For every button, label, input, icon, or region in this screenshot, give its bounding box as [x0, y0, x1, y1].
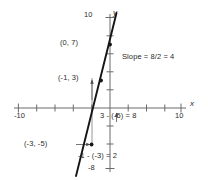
chart-figure: 10 y (0, 7) Slope = 8/2 = 4 (-1, 3) -10 …: [0, 0, 208, 180]
rise-annotation: 3 - (-5) = 8: [100, 112, 136, 120]
point-label-0-7: (0, 7): [60, 39, 78, 47]
y-axis-min-label: -8: [88, 164, 95, 172]
x-axis-min-label: -10: [14, 112, 25, 120]
x-axis-max-label: 10: [175, 112, 184, 120]
y-axis-title: y: [113, 9, 117, 17]
point-marker-0-7: [108, 43, 112, 47]
point-marker-n3-n5: [90, 143, 94, 147]
slope-annotation: Slope = 8/2 = 4: [122, 53, 174, 61]
run-annotation: -1 - (-3) = 2: [78, 152, 117, 160]
point-label-n3-n5: (-3, -5): [24, 140, 47, 148]
y-axis-max-label: 10: [84, 11, 93, 19]
data-point-markers: [90, 43, 112, 147]
point-marker-n1-3: [99, 79, 103, 83]
x-axis-title: x: [190, 100, 194, 108]
point-label-n1-3: (-1, 3): [58, 74, 79, 82]
